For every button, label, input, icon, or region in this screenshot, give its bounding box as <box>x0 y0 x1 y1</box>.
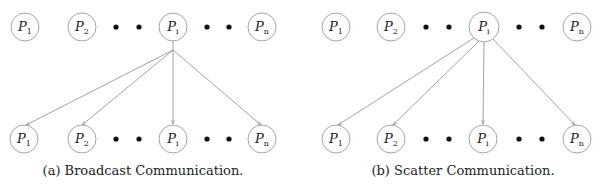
caption-scatter: (b) Scatter Communication. <box>371 163 554 178</box>
scatter-edges <box>338 38 575 125</box>
scatter-top-row: P1 P2 Pi Pn <box>322 12 591 42</box>
node-p2: P2 <box>377 13 405 41</box>
edge-to-p2 <box>393 41 479 125</box>
node-pi-source: Pi <box>159 13 187 41</box>
node-p2: P2 <box>68 13 96 41</box>
node-pi-source: Pi <box>469 12 499 42</box>
ellipsis-dot <box>423 24 428 29</box>
node-p1: P1 <box>322 13 350 41</box>
ellipsis-dot <box>539 24 544 29</box>
broadcast-bottom-row: P1 P2 Pi Pn <box>10 125 276 153</box>
ellipsis-dot <box>539 136 544 141</box>
edge-to-pn <box>173 50 261 125</box>
ellipsis-dot <box>423 136 428 141</box>
node-pn: Pn <box>248 125 276 153</box>
ellipsis-dot <box>136 136 141 141</box>
node-p1: P1 <box>322 125 350 153</box>
node-pi: Pi <box>469 125 497 153</box>
ellipsis-dot <box>516 24 521 29</box>
edge-to-pn <box>493 39 575 125</box>
node-pi: Pi <box>159 125 187 153</box>
ellipsis-dot <box>226 136 231 141</box>
broadcast-edges <box>26 41 261 125</box>
scatter-bottom-row: P1 P2 Pi Pn <box>322 125 591 153</box>
communication-diagrams: P1 P2 Pi Pn P1 <box>0 0 604 184</box>
caption-broadcast: (a) Broadcast Communication. <box>43 163 244 178</box>
broadcast-top-row: P1 P2 Pi Pn <box>11 13 276 41</box>
ellipsis-dot <box>204 136 209 141</box>
ellipsis-dot <box>204 24 209 29</box>
edge-to-p1 <box>26 50 173 125</box>
node-pn: Pn <box>563 13 591 41</box>
edge-to-p2 <box>82 50 173 125</box>
node-p1: P1 <box>10 125 38 153</box>
edge-to-pi <box>483 42 484 124</box>
broadcast-diagram: P1 P2 Pi Pn P1 <box>10 13 276 178</box>
ellipsis-dot <box>446 136 451 141</box>
ellipsis-dot <box>446 24 451 29</box>
scatter-diagram: P1 P2 Pi Pn P1 <box>322 12 591 178</box>
ellipsis-dot <box>516 136 521 141</box>
ellipsis-dot <box>136 24 141 29</box>
node-p1: P1 <box>11 13 39 41</box>
ellipsis-dot <box>113 24 118 29</box>
node-p2: P2 <box>68 125 96 153</box>
node-p2: P2 <box>377 125 405 153</box>
ellipsis-dot <box>113 136 118 141</box>
node-pn: Pn <box>563 125 591 153</box>
node-pn: Pn <box>248 13 276 41</box>
ellipsis-dot <box>226 24 231 29</box>
